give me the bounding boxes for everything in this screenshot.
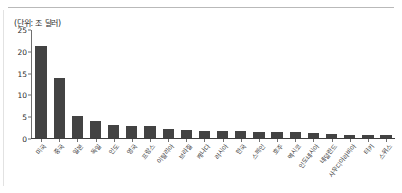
x-axis-label: 일본 (70, 142, 84, 157)
x-axis-label-cell: 러시아 (214, 141, 232, 193)
bar (54, 78, 65, 138)
bar (362, 135, 373, 138)
x-axis-label: 스위스 (376, 142, 394, 161)
bar (163, 129, 174, 138)
bar-item (177, 30, 195, 138)
x-axis-label-cell: 호주 (269, 141, 287, 193)
bar-item (123, 30, 141, 138)
top-divider (8, 7, 394, 8)
bar (271, 132, 282, 138)
bar (144, 126, 155, 138)
bar (308, 133, 319, 138)
bar-item (68, 30, 86, 138)
y-axis-tick-label: 0 (3, 135, 31, 144)
x-axis-label-cell: 터키 (360, 141, 378, 193)
bar-item (32, 30, 50, 138)
x-axis-label-cell: 중국 (50, 141, 68, 193)
bar-item (323, 30, 341, 138)
y-axis-tick-label: 10 (3, 91, 31, 100)
x-axis-label: 인도 (107, 142, 121, 157)
x-axis-line (31, 138, 395, 139)
bar (35, 46, 46, 138)
x-axis-label: 호주 (271, 142, 285, 157)
bar (181, 130, 192, 138)
chart-plot-area: 0510152025 (31, 30, 395, 139)
bar-item (377, 30, 395, 138)
y-axis-tick-label: 15 (3, 69, 31, 78)
y-axis-tick-mark (28, 73, 31, 74)
bar-item (232, 30, 250, 138)
x-axis-label: 스페인 (249, 142, 267, 161)
x-axis-label: 터키 (362, 142, 376, 157)
bar-item (268, 30, 286, 138)
bar (72, 116, 83, 138)
x-axis-label-cell: 독일 (87, 141, 105, 193)
x-axis-label-cell: 영국 (123, 141, 141, 193)
x-axis-label-cell: 일본 (68, 141, 86, 193)
y-axis-tick-label: 5 (3, 113, 31, 122)
bar (126, 126, 137, 138)
x-axis-label: 캐나다 (194, 142, 212, 161)
bar (217, 131, 228, 138)
bar (253, 132, 264, 138)
x-axis-label-cell: 인도네시아 (305, 141, 323, 193)
y-axis-tick-mark (28, 30, 31, 31)
y-axis-tick-mark (28, 139, 31, 140)
bar-item (286, 30, 304, 138)
bar (235, 131, 246, 138)
x-axis-label: 영국 (125, 142, 139, 157)
bar (344, 135, 355, 138)
x-axis-label-cell: 프랑스 (141, 141, 159, 193)
x-axis-label-cell: 미국 (32, 141, 50, 193)
bar-item (214, 30, 232, 138)
bar-item (195, 30, 213, 138)
x-axis-label: 한국 (234, 142, 248, 157)
x-axis-label-cell: 이탈리아 (159, 141, 177, 193)
bar (326, 134, 337, 138)
x-axis-labels: 미국중국일본독일인도영국프랑스이탈리아브라질캐나다러시아한국스페인호주멕시코인도… (32, 141, 396, 193)
x-axis-label: 독일 (89, 142, 103, 157)
x-axis-label-cell: 사우디아라비아 (341, 141, 359, 193)
bar-item (359, 30, 377, 138)
bar-item (50, 30, 68, 138)
bar-item (159, 30, 177, 138)
x-axis-label-cell: 캐나다 (196, 141, 214, 193)
x-axis-label: 중국 (52, 142, 66, 157)
bar (199, 131, 210, 138)
x-axis-label-cell: 인도 (105, 141, 123, 193)
x-axis-label: 브라질 (176, 142, 194, 161)
y-axis-tick-mark (28, 117, 31, 118)
bar (380, 135, 391, 138)
bar-item (86, 30, 104, 138)
y-axis-tick-mark (28, 95, 31, 96)
bar-item (250, 30, 268, 138)
y-axis-tick-label: 20 (3, 47, 31, 56)
bar-item (341, 30, 359, 138)
y-axis-tick-label: 25 (3, 26, 31, 35)
x-axis-label-cell: 브라질 (178, 141, 196, 193)
bar (108, 125, 119, 138)
bar-item (304, 30, 322, 138)
bar (90, 121, 101, 138)
x-axis-label-cell: 스페인 (250, 141, 268, 193)
x-axis-label-cell: 한국 (232, 141, 250, 193)
bar-item (141, 30, 159, 138)
x-axis-label-cell: 스위스 (378, 141, 396, 193)
bar-item (105, 30, 123, 138)
bar (290, 132, 301, 138)
x-axis-label: 미국 (34, 142, 48, 157)
x-axis-label: 러시아 (213, 142, 231, 161)
bar-series (32, 30, 395, 138)
y-axis-tick-mark (28, 51, 31, 52)
